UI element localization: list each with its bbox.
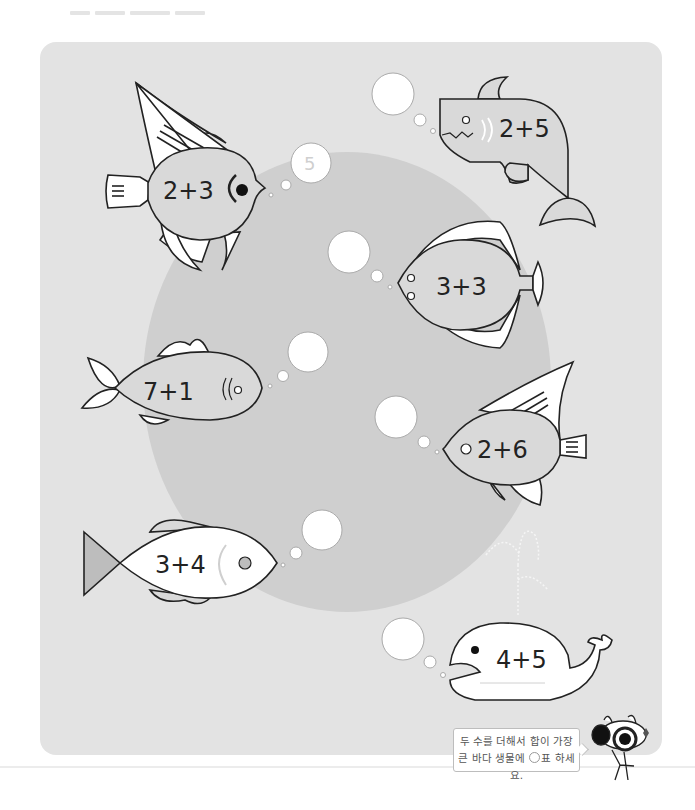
instruction-bubble: 두 수를 더해서 합이 가장 큰 바다 생물에 표 하세요. [453,728,580,772]
sea-scene: 2+3 5 2+5 3+3 [0,0,695,810]
equation-text: 7+1 [143,378,194,406]
water-spout-icon [486,531,548,615]
mascot-character-icon [592,716,649,780]
instruction-line-2: 큰 바다 생물에 표 하세요. [454,750,579,784]
instruction-text: 큰 바다 생물에 [458,752,528,764]
equation-text: 3+3 [436,273,487,301]
equation-text: 2+5 [499,115,550,143]
bubbles [372,73,436,134]
equation-text: 3+4 [155,551,206,579]
equation-text: 2+3 [163,177,214,205]
answer-bubble-text: 5 [304,153,315,174]
bubbles [382,618,446,678]
equation-text: 2+6 [477,436,528,464]
instruction-line-1: 두 수를 더해서 합이 가장 [454,733,579,750]
circle-mark-icon [529,752,540,763]
equation-text: 4+5 [496,646,547,674]
